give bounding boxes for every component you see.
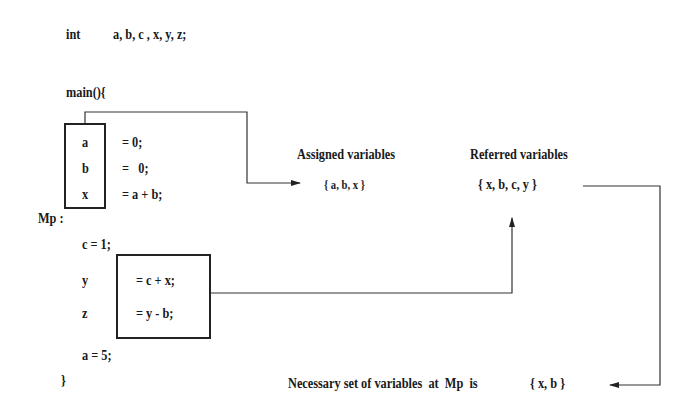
a-assign: a = 5; [82, 347, 112, 364]
referred-title: Referred variables [470, 146, 568, 163]
assigned-set: { a, b, x } [324, 177, 365, 193]
block2-expr-z: = y - b; [136, 305, 173, 322]
block1-expr-x: = a + b; [122, 186, 162, 203]
arrow-block2-to-referred [210, 218, 512, 293]
referred-set: { x, b, c, y } [478, 176, 537, 193]
c-assign: c = 1; [82, 236, 111, 253]
block2-var-z: z [82, 305, 87, 322]
main-open: main(){ [66, 84, 106, 101]
block1-expr-a: = 0; [122, 134, 142, 151]
decl-variables: a, b, c , x, y, z; [113, 26, 186, 43]
block1-expr-b: = 0; [122, 160, 148, 177]
block1-var-x: x [82, 186, 88, 203]
arrow-block1-to-assigned [85, 112, 300, 183]
result-text: Necessary set of variables at Mp is [288, 375, 478, 392]
mp-label: Mp : [38, 210, 64, 227]
assigned-title: Assigned variables [297, 146, 395, 163]
block2-expr-y: = c + x; [136, 272, 175, 289]
decl-keyword: int [66, 26, 80, 43]
arrow-referred-to-result [583, 186, 660, 385]
referred-box [116, 254, 211, 339]
main-close: } [61, 372, 66, 389]
block2-var-y: y [82, 272, 88, 289]
block1-var-b: b [82, 160, 89, 177]
block1-var-a: a [82, 134, 88, 151]
result-set: { x, b } [530, 375, 565, 392]
